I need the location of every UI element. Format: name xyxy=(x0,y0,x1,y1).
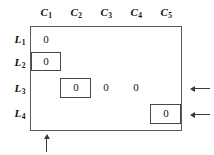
row-arrow-l4-shaft xyxy=(194,114,210,115)
row-arrow-l4-icon xyxy=(190,110,210,119)
row-arrow-l4-head xyxy=(190,112,195,118)
row-label-l2: L2 xyxy=(3,56,25,70)
row-label-l1: L1 xyxy=(3,33,25,47)
column-header-c4-base: C xyxy=(130,6,137,18)
row-label-l3: L3 xyxy=(3,82,25,96)
row-label-l1-base: L xyxy=(15,33,22,45)
column-header-c4-sub: 4 xyxy=(138,11,142,20)
column-header-c2: C2 xyxy=(63,6,89,20)
row-arrow-l3-icon xyxy=(190,84,210,93)
column-header-c2-sub: 2 xyxy=(78,11,82,20)
row-label-l4-sub: 4 xyxy=(22,112,26,121)
column-arrow-c1-head xyxy=(44,134,50,139)
row-label-l1-sub: 1 xyxy=(22,38,26,47)
column-header-c2-base: C xyxy=(70,6,77,18)
matrix-cell-l3-c3: 0 xyxy=(98,81,114,94)
column-arrow-c1-icon xyxy=(42,134,51,152)
row-arrow-l3-shaft xyxy=(194,88,210,89)
matrix-cell-l1-c1: 0 xyxy=(38,33,54,46)
matrix-cell-l3-c2: 0 xyxy=(68,81,84,94)
column-header-c5-sub: 5 xyxy=(168,11,172,20)
matrix-cell-l3-c4: 0 xyxy=(128,81,144,94)
column-header-c3: C3 xyxy=(93,6,119,20)
row-label-l4-base: L xyxy=(15,107,22,119)
column-header-c4: C4 xyxy=(123,6,149,20)
matrix-diagram: C1 C2 C3 C4 C5 L1 L2 L3 L4 0 0 0 0 0 0 xyxy=(0,0,214,155)
row-label-l3-sub: 3 xyxy=(22,87,26,96)
column-header-c3-base: C xyxy=(100,6,107,18)
row-label-l3-base: L xyxy=(15,82,22,94)
row-label-l2-base: L xyxy=(15,56,22,68)
matrix-cell-l2-c1: 0 xyxy=(38,55,54,68)
column-header-c5-base: C xyxy=(160,6,167,18)
column-header-c1-base: C xyxy=(40,6,47,18)
column-header-c5: C5 xyxy=(153,6,179,20)
column-arrow-c1-shaft xyxy=(46,138,47,152)
column-header-c1-sub: 1 xyxy=(48,11,52,20)
row-label-l4: L4 xyxy=(3,107,25,121)
row-arrow-l3-head xyxy=(190,86,195,92)
column-header-c3-sub: 3 xyxy=(108,11,112,20)
matrix-cell-l4-c5: 0 xyxy=(158,107,174,120)
row-label-l2-sub: 2 xyxy=(22,61,26,70)
column-header-c1: C1 xyxy=(33,6,59,20)
